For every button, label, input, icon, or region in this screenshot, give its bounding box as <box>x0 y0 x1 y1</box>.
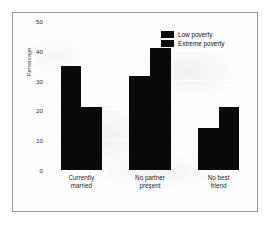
legend-item-2: Extreme poverty <box>161 40 225 47</box>
x-category-label-line: present <box>116 182 185 190</box>
legend-label: Extreme poverty <box>178 40 225 47</box>
y-axis-tick-labels: 01020304050 <box>23 13 43 211</box>
legend-swatch-icon <box>161 31 174 38</box>
y-tick-label-10: 10 <box>27 137 43 144</box>
y-tick-label-0: 0 <box>27 167 43 174</box>
gridline-50 <box>47 20 253 21</box>
legend-swatch-icon <box>161 40 174 47</box>
bar-1-1 <box>61 66 82 170</box>
x-category-label-2: No partnerpresent <box>116 174 185 190</box>
bar-3-2 <box>219 107 240 170</box>
legend-item-1: Low poverty <box>161 31 225 38</box>
bar-3-1 <box>198 128 219 170</box>
figure-frame: Percentage 01020304050 Low povertyExtrem… <box>12 12 258 212</box>
bar-2-2 <box>150 48 171 170</box>
chart-legend: Low povertyExtreme poverty <box>161 31 225 49</box>
x-category-label-line: Currently <box>47 174 116 182</box>
bar-2-1 <box>129 76 150 170</box>
x-category-label-line: married <box>47 182 116 190</box>
legend-label: Low poverty <box>178 31 212 38</box>
y-tick-label-40: 40 <box>27 47 43 54</box>
x-category-label-line: No best <box>184 174 253 182</box>
x-category-label-1: Currentlymarried <box>47 174 116 190</box>
y-tick-label-20: 20 <box>27 107 43 114</box>
x-category-label-line: No partner <box>116 174 185 182</box>
x-category-label-line: friend <box>184 182 253 190</box>
y-tick-label-50: 50 <box>27 18 43 25</box>
x-category-label-3: No bestfriend <box>184 174 253 190</box>
bar-1-2 <box>81 107 102 170</box>
y-tick-label-30: 30 <box>27 77 43 84</box>
